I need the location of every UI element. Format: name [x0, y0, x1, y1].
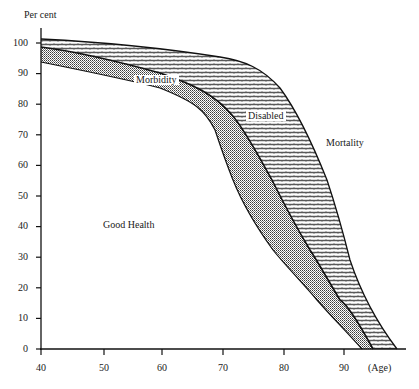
mortality-label: Mortality	[326, 138, 364, 148]
survival-curve-chart	[0, 0, 419, 389]
x-tick-label: 90	[332, 363, 356, 373]
y-tick-label: 30	[4, 252, 28, 262]
x-tick-label: 70	[211, 363, 235, 373]
x-tick-label: 50	[92, 363, 116, 373]
x-tick-label: 80	[272, 363, 296, 373]
y-tick-label: 80	[4, 99, 28, 109]
x-ticks	[41, 349, 344, 355]
y-tick-label: 0	[4, 344, 28, 354]
y-ticks	[36, 43, 41, 349]
y-tick-label: 20	[4, 283, 28, 293]
x-tick-label: 60	[150, 363, 174, 373]
y-tick-label: 50	[4, 191, 28, 201]
y-tick-label: 100	[4, 38, 28, 48]
y-tick-label: 70	[4, 130, 28, 140]
y-tick-label: 60	[4, 160, 28, 170]
y-axis-label: Per cent	[24, 10, 57, 20]
y-tick-label: 40	[4, 221, 28, 231]
y-tick-label: 10	[4, 313, 28, 323]
y-tick-label: 90	[4, 68, 28, 78]
morbidity-label: Morbidity	[134, 75, 179, 85]
x-axis-label: (Age)	[368, 363, 391, 373]
disabled-label: Disabled	[246, 111, 286, 121]
good-health-label: Good Health	[103, 220, 154, 230]
x-tick-label: 40	[29, 363, 53, 373]
